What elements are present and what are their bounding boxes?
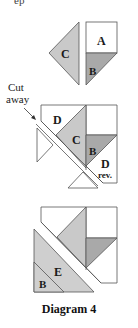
label-b: B [89, 65, 97, 77]
cutaway-triangle-bottom [68, 172, 98, 188]
label-b-3: B [39, 278, 47, 290]
label-c-2: C [72, 133, 81, 147]
label-d: D [53, 113, 62, 127]
cut-away-label-line1: Cut [8, 81, 24, 93]
label-b-2: B [89, 145, 97, 157]
step3-group: E B [34, 207, 117, 292]
step1-group: C A B [49, 22, 117, 85]
step2-group: Cut away D C B D rev. [6, 81, 117, 188]
label-a: A [97, 34, 106, 48]
cut-away-label-line2: away [6, 93, 30, 105]
label-c: C [61, 47, 70, 61]
label-e: E [54, 265, 62, 279]
label-rev: rev. [98, 170, 112, 180]
quilt-diagram: C A B Cut away D C B D rev. E B [0, 0, 138, 328]
label-d-rev: D [101, 157, 110, 171]
diagram-caption: Diagram 4 [0, 302, 138, 317]
